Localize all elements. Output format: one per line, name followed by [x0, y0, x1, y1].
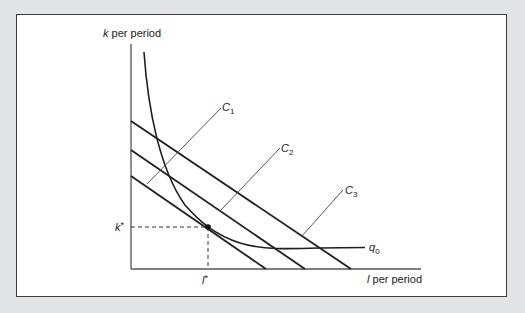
- y-axis-label: k per period: [103, 27, 161, 39]
- isoquant-curve-q0: [144, 52, 365, 249]
- tangency-point: [205, 224, 211, 230]
- isocost-label-c2: C2: [281, 142, 294, 157]
- c3-leader: [302, 190, 343, 236]
- isocost-label-c1: C1: [222, 101, 235, 116]
- isocost-line-c2: [131, 150, 305, 269]
- isoquant-diagram: k per period l per period k* l* q0 C1 C2…: [0, 0, 525, 313]
- isocost-label-c3: C3: [345, 184, 358, 199]
- c1-leader: [147, 108, 221, 184]
- isoquant-label-q0: q0: [369, 241, 380, 256]
- isocost-line-c3: [131, 121, 351, 269]
- isocost-line-c1: [131, 176, 266, 269]
- x-axis-label: l per period: [367, 273, 422, 285]
- l-star-label: l*: [202, 273, 208, 286]
- k-star-label: k*: [115, 220, 125, 233]
